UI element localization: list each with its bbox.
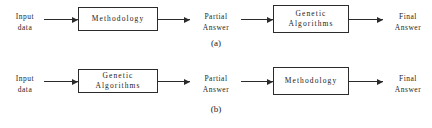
final-answer-line1-a: Final [384,12,432,23]
process-box-genetic-algorithms-b: Genetic Algorithms [78,69,158,93]
final-answer-line2-a: Answer [384,23,432,34]
process-box-label-line1-b: Genetic [95,71,140,82]
arrow-box2-to-final-a [349,16,383,23]
partial-answer-line2-a: Answer [188,23,244,34]
final-answer-label-b: Final Answer [384,74,432,95]
input-data-label-a: Input data [2,12,48,33]
flow-row-b: Input data Genetic Algorithms Partial An… [0,62,432,108]
final-answer-line1-b: Final [384,74,432,85]
arrow-box1-to-partial-a [158,16,190,23]
figure-caption-a: (a) [196,38,236,48]
arrow-partial-to-box2-b [241,78,273,85]
arrow-input-to-box1-a [44,16,78,23]
arrowhead-icon [377,79,383,85]
partial-answer-label-a: Partial Answer [188,12,244,33]
input-data-label-b: Input data [2,74,48,95]
input-data-line1-a: Input [2,12,48,23]
process-box-label-line1-a: Methodology [92,14,145,25]
arrowhead-icon [377,17,383,23]
partial-answer-line1-b: Partial [188,74,244,85]
input-data-line2-b: data [2,85,48,96]
arrow-box1-to-partial-b [158,78,190,85]
process-box-genetic-algorithms-a: Genetic Algorithms [273,5,349,33]
partial-answer-line1-a: Partial [188,12,244,23]
input-data-line1-b: Input [2,74,48,85]
arrow-input-to-box1-b [44,78,78,85]
arrow-partial-to-box2-a [241,16,273,23]
figure-caption-b: (b) [196,104,236,114]
process-box-methodology-a: Methodology [78,7,158,31]
input-data-line2-a: data [2,23,48,34]
arrow-box2-to-final-b [349,78,383,85]
process-box-label-line1-a2: Genetic [288,9,333,20]
partial-answer-line2-b: Answer [188,85,244,96]
process-box-label-line2-b: Algorithms [95,81,140,92]
flowchart-diagram: Input data Methodology Partial Answer [0,0,432,128]
process-box-label-line1-b2: Methodology [285,76,338,87]
process-box-label-line2-a2: Algorithms [288,19,333,30]
final-answer-line2-b: Answer [384,85,432,96]
process-box-methodology-b: Methodology [273,67,349,95]
partial-answer-label-b: Partial Answer [188,74,244,95]
final-answer-label-a: Final Answer [384,12,432,33]
